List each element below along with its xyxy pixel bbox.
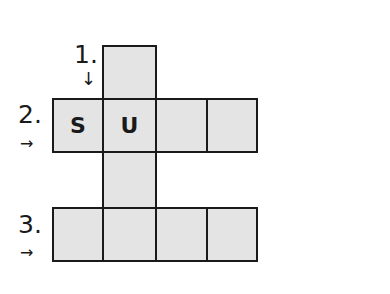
crossword-cell[interactable] xyxy=(206,207,258,262)
crossword-cell[interactable] xyxy=(102,151,157,209)
clue-number-3: 3. xyxy=(18,212,42,237)
crossword-cell[interactable] xyxy=(102,45,157,100)
crossword-cell[interactable] xyxy=(155,98,208,153)
clue-number-1: 1. xyxy=(74,42,98,67)
down-arrow-icon: ↓ xyxy=(81,70,96,88)
right-arrow-icon: → xyxy=(20,245,33,261)
clue-number-2: 2. xyxy=(18,102,42,127)
right-arrow-icon: → xyxy=(20,136,33,152)
crossword-cell[interactable] xyxy=(102,207,157,262)
crossword-cell[interactable] xyxy=(52,207,104,262)
crossword-cell[interactable] xyxy=(155,207,208,262)
crossword-cell[interactable] xyxy=(206,98,258,153)
crossword-cell[interactable]: S xyxy=(52,98,104,153)
crossword-cell[interactable]: U xyxy=(102,98,157,153)
